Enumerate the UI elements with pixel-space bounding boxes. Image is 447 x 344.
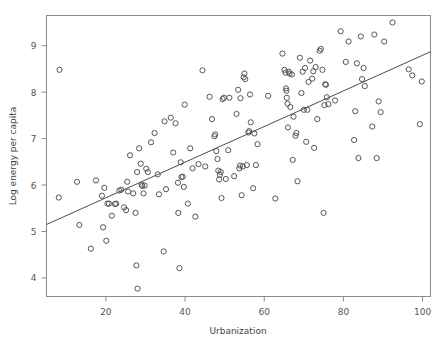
data-point [310, 76, 315, 81]
data-point [135, 169, 140, 174]
data-point [374, 155, 379, 160]
data-point [376, 99, 381, 104]
data-point [253, 162, 258, 167]
data-point [285, 101, 290, 106]
data-point [295, 179, 300, 184]
data-point [133, 210, 138, 215]
data-point [313, 64, 318, 69]
data-point [99, 193, 104, 198]
data-point [390, 20, 395, 25]
x-tick-label: 20 [100, 307, 112, 317]
data-point [203, 164, 208, 169]
data-point [280, 51, 285, 56]
data-point [320, 67, 325, 72]
data-point [125, 179, 130, 184]
data-point [234, 111, 239, 116]
x-axis-tick-labels: 20406080100 [100, 307, 431, 317]
data-point [382, 39, 387, 44]
data-point [223, 176, 228, 181]
data-point [134, 263, 139, 268]
data-point [190, 166, 195, 171]
data-point [291, 114, 296, 119]
plot-canvas: 20406080100 456789 Urbanization Log ener… [0, 0, 447, 344]
data-point [131, 191, 136, 196]
data-point [163, 187, 168, 192]
data-point [168, 115, 173, 120]
data-point [196, 162, 201, 167]
data-point [125, 189, 130, 194]
data-point [290, 157, 295, 162]
data-point [209, 116, 214, 121]
data-point [251, 186, 256, 191]
y-tick-label: 6 [31, 181, 37, 191]
data-point [177, 266, 182, 271]
data-point [338, 29, 343, 34]
data-point [171, 150, 176, 155]
data-point [173, 121, 178, 126]
data-point [362, 84, 367, 89]
data-point [247, 92, 252, 97]
data-point [181, 184, 186, 189]
data-point [378, 110, 383, 115]
data-point [308, 58, 313, 63]
data-point [299, 90, 304, 95]
data-point [188, 146, 193, 151]
data-point [207, 94, 212, 99]
x-axis-label: Urbanization [209, 326, 266, 336]
y-axis-tick-labels: 456789 [31, 41, 37, 283]
data-point [215, 156, 220, 161]
x-tick-label: 40 [179, 307, 191, 317]
data-point [238, 96, 243, 101]
data-point [297, 55, 302, 60]
data-point [226, 148, 231, 153]
data-point [266, 93, 271, 98]
data-point [104, 238, 109, 243]
data-point [236, 87, 241, 92]
data-point [101, 225, 106, 230]
y-axis-ticks [42, 46, 47, 278]
data-point [227, 95, 232, 100]
data-point [358, 34, 363, 39]
data-point [372, 32, 377, 37]
x-axis-ticks [106, 297, 423, 302]
data-point [359, 77, 364, 82]
data-point [242, 71, 247, 76]
data-point [248, 120, 253, 125]
data-point [185, 201, 190, 206]
y-tick-label: 7 [31, 134, 37, 144]
x-tick-label: 60 [259, 307, 271, 317]
data-point [232, 174, 237, 179]
data-point [361, 65, 366, 70]
data-point [56, 195, 61, 200]
data-point [284, 95, 289, 100]
data-point [88, 246, 93, 251]
data-point [137, 146, 142, 151]
data-point [285, 125, 290, 130]
x-tick-label: 80 [338, 307, 350, 317]
x-tick-label: 100 [414, 307, 431, 317]
y-tick-label: 9 [31, 41, 37, 51]
data-point [312, 145, 317, 150]
data-point [162, 119, 167, 124]
data-point [417, 122, 422, 127]
data-point [176, 210, 181, 215]
data-point [219, 195, 224, 200]
data-point [356, 155, 361, 160]
data-point [74, 179, 79, 184]
data-point [93, 178, 98, 183]
data-point [156, 192, 161, 197]
data-point [182, 102, 187, 107]
y-tick-label: 8 [31, 88, 37, 98]
data-point [354, 61, 359, 66]
data-point [343, 59, 348, 64]
y-tick-label: 5 [31, 227, 37, 237]
data-point [255, 142, 260, 147]
data-point [141, 191, 146, 196]
data-point [127, 153, 132, 158]
data-point [419, 79, 424, 84]
data-points [56, 20, 424, 291]
data-point [321, 210, 326, 215]
data-point [221, 95, 226, 100]
data-point [135, 286, 140, 291]
y-axis-label: Log energy per capita [8, 107, 18, 206]
